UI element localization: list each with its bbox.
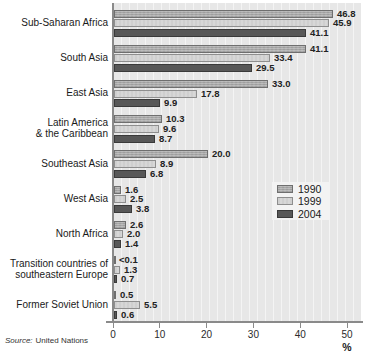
bar-1999-8: [114, 266, 120, 274]
x-tick-label: 0: [100, 329, 126, 340]
value-label: 33.0: [272, 79, 291, 89]
bar-1999-3: [114, 90, 197, 98]
value-label: 8.7: [159, 134, 172, 144]
category-label: Former Soviet Union: [0, 299, 108, 311]
bar-1990-6: [114, 186, 121, 194]
bar-chart-figure: % 1990 1999 2004 Source:United Nations S…: [0, 0, 368, 359]
value-label: 1.4: [125, 239, 138, 249]
source-note: Source:United Nations: [5, 336, 88, 345]
x-tick: [253, 323, 254, 328]
value-label: 20.0: [212, 149, 231, 159]
legend-item-1999: 1999: [277, 196, 330, 206]
value-label: 33.4: [274, 53, 293, 63]
bar-1999-5: [114, 160, 156, 168]
category-label: Transition countries ofsoutheastern Euro…: [0, 258, 108, 281]
bar-1990-8: [114, 256, 116, 264]
category-label: East Asia: [0, 87, 108, 99]
bar-2004-2: [114, 64, 252, 72]
x-tick-label: 20: [194, 329, 220, 340]
source-text: United Nations: [36, 336, 88, 345]
bar-2004-6: [114, 205, 132, 213]
category-label: South Asia: [0, 52, 108, 64]
value-label: 3.8: [136, 204, 149, 214]
value-label: 0.6: [121, 310, 134, 320]
value-label: 41.1: [310, 28, 329, 38]
category-label: Sub-Saharan Africa: [0, 17, 108, 29]
legend-item-1990: 1990: [277, 184, 330, 194]
x-axis-line: [106, 321, 363, 323]
category-label: Latin America& the Caribbean: [0, 117, 108, 140]
category-label: North Africa: [0, 228, 108, 240]
value-label: 41.1: [310, 44, 329, 54]
value-label: 9.9: [164, 98, 177, 108]
bar-1999-7: [114, 230, 123, 238]
bar-2004-5: [114, 170, 146, 178]
value-label: 29.5: [256, 63, 275, 73]
bar-1990-4: [114, 115, 162, 123]
bar-1999-2: [114, 54, 270, 62]
bar-1990-1: [114, 10, 333, 18]
x-tick: [113, 323, 114, 328]
legend-label-1999: 1999: [298, 196, 321, 206]
legend-swatch-1999: [277, 197, 293, 205]
x-tick: [300, 323, 301, 328]
bar-1999-6: [114, 195, 126, 203]
bar-2004-1: [114, 29, 306, 37]
bar-2004-9: [114, 311, 117, 319]
x-axis-unit-label: %: [334, 341, 360, 353]
value-label: 0.7: [121, 274, 134, 284]
x-tick-label: 10: [147, 329, 173, 340]
legend: 1990 1999 2004: [272, 182, 330, 220]
legend-label-1990: 1990: [298, 184, 321, 194]
x-tick: [206, 323, 207, 328]
value-label: 0.5: [120, 290, 133, 300]
bar-1999-9: [114, 301, 140, 309]
bar-2004-7: [114, 240, 121, 248]
x-tick: [159, 323, 160, 328]
bar-1999-1: [114, 19, 329, 27]
bar-2004-3: [114, 99, 160, 107]
bar-2004-8: [114, 275, 117, 283]
legend-swatch-1990: [277, 185, 293, 193]
x-tick: [347, 323, 348, 328]
bar-2004-4: [114, 135, 155, 143]
value-label: 45.9: [333, 18, 352, 28]
bar-1990-9: [114, 291, 116, 299]
x-tick-label: 40: [287, 329, 313, 340]
legend-swatch-2004: [277, 210, 293, 218]
value-label: 17.8: [201, 89, 220, 99]
category-label: West Asia: [0, 193, 108, 205]
legend-label-2004: 2004: [298, 209, 321, 219]
legend-item-2004: 2004: [277, 209, 330, 219]
x-tick-label: 50: [334, 329, 360, 340]
x-tick-label: 30: [240, 329, 266, 340]
bar-1999-4: [114, 125, 159, 133]
bar-1990-7: [114, 221, 126, 229]
value-label: 5.5: [144, 300, 157, 310]
category-label: Southeast Asia: [0, 158, 108, 170]
bar-1990-3: [114, 80, 268, 88]
source-prefix: Source:: [5, 336, 33, 345]
value-label: 6.8: [150, 169, 163, 179]
